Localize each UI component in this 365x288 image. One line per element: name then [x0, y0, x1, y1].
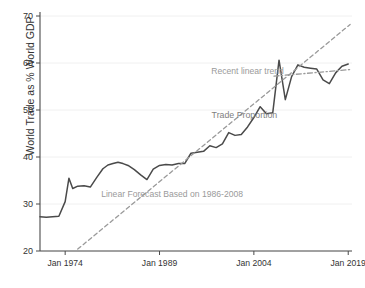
x-tick-label: Jan 2019: [331, 258, 365, 268]
x-tick-label: Jan 2004: [236, 258, 272, 268]
gridlines: [40, 16, 352, 251]
series-line-recent-linear-trend: [274, 70, 350, 77]
y-tick-label: 40: [23, 152, 33, 162]
annotation-linear-forecast: Linear Forecast Based on 1986-2008: [101, 189, 243, 199]
y-tick-label: 70: [23, 11, 33, 21]
x-axis-ticks: Jan 1974Jan 1989Jan 2004Jan 2019: [47, 251, 365, 268]
x-tick-label: Jan 1974: [47, 258, 83, 268]
line-chart: 203040506070 Jan 1974Jan 1989Jan 2004Jan…: [0, 0, 365, 288]
annotation-trade-proportion: Trade Proportion: [212, 110, 278, 120]
x-tick-label: Jan 1989: [142, 258, 178, 268]
y-tick-label: 50: [23, 105, 33, 115]
data-series-group: [40, 24, 350, 249]
chart-container: World Trade as % World GDP 203040506070 …: [0, 0, 365, 288]
y-axis-ticks: 203040506070: [23, 11, 40, 256]
y-tick-label: 60: [23, 58, 33, 68]
y-tick-label: 30: [23, 199, 33, 209]
series-line-linear-forecast-based-on-1986-2008: [78, 24, 350, 249]
annotation-recent-linear-trend: Recent linear trend: [211, 66, 284, 76]
y-tick-label: 20: [23, 246, 33, 256]
annotations-group: Recent linear trendTrade ProportionLinea…: [101, 66, 284, 199]
